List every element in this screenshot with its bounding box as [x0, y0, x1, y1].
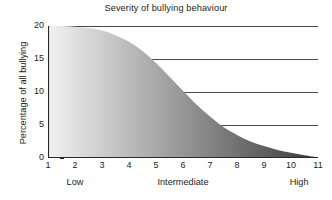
y-tick-mark: [60, 158, 64, 159]
x-tick-label: 10: [280, 161, 302, 170]
chart-figure: Severity of bullying behaviour Percentag…: [0, 0, 332, 200]
y-tick-label: 5: [18, 120, 44, 129]
x-tick-label: 6: [172, 161, 194, 170]
x-tick-label: 8: [226, 161, 248, 170]
category-axis-labels: LowIntermediateHigh: [48, 178, 318, 192]
category-label: High: [254, 178, 332, 187]
x-tick-label: 1: [37, 161, 59, 170]
category-label: Low: [30, 178, 120, 187]
x-tick-label: 5: [145, 161, 167, 170]
x-tick-label: 9: [253, 161, 275, 170]
x-tick-label: 4: [118, 161, 140, 170]
x-tick-label: 2: [64, 161, 86, 170]
y-tick-label: 15: [18, 54, 44, 63]
category-label: Intermediate: [138, 178, 228, 187]
y-tick-label: 10: [18, 87, 44, 96]
y-tick-label: 20: [18, 21, 44, 30]
x-axis-tick-labels: 1234567891011: [48, 161, 318, 174]
x-tick-label: 7: [199, 161, 221, 170]
plot-area: [48, 26, 318, 158]
plot-svg: [48, 26, 318, 158]
chart-title: Severity of bullying behaviour: [0, 3, 332, 13]
x-tick-label: 3: [91, 161, 113, 170]
y-axis-tick-labels: 05101520: [16, 0, 44, 200]
x-tick-label: 11: [307, 161, 329, 170]
